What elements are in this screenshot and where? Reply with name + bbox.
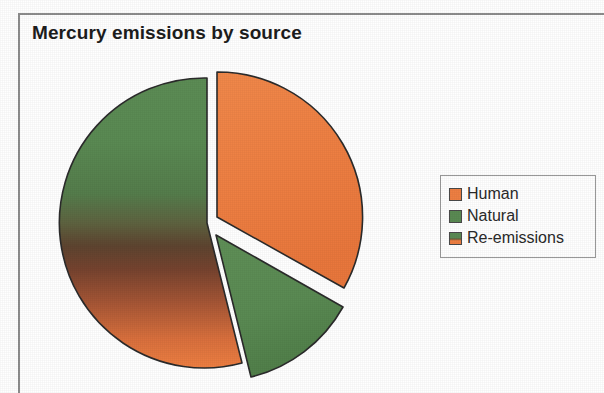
chart-title: Mercury emissions by source <box>32 22 302 44</box>
legend-item-re-emissions[interactable]: Re-emissions <box>449 227 587 249</box>
legend-label-natural: Natural <box>467 208 519 224</box>
chart-legend: Human Natural Re-emissions <box>440 175 596 258</box>
orange-swatch-icon <box>449 188 462 201</box>
pie-chart <box>44 62 374 387</box>
pie-slice-re-emissions <box>59 78 242 368</box>
green-swatch-icon <box>449 210 462 223</box>
pie-chart-svg <box>44 62 374 387</box>
legend-item-human[interactable]: Human <box>449 183 587 205</box>
legend-label-re-emissions: Re-emissions <box>467 230 564 246</box>
legend-label-human: Human <box>467 186 519 202</box>
legend-item-natural[interactable]: Natural <box>449 205 587 227</box>
green-orange-swatch-icon <box>449 232 462 245</box>
